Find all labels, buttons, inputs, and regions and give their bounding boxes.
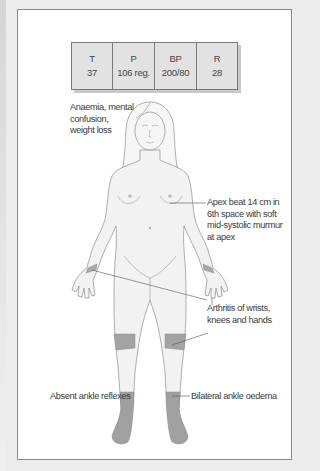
right-knee-band bbox=[165, 334, 186, 350]
label-line: Anaemia, mental bbox=[70, 102, 134, 114]
right-ankle-foot bbox=[166, 392, 188, 444]
label-line: 6th space with soft bbox=[207, 209, 283, 221]
label-line: Arthritis of wrists, bbox=[207, 303, 272, 315]
ankle-reflexes-label: Absent ankle reflexes bbox=[50, 391, 131, 403]
label-line: at apex bbox=[207, 232, 283, 244]
label-line: weight loss bbox=[70, 125, 134, 137]
apex-beat-label: Apex beat 14 cm in 6th space with soft m… bbox=[207, 197, 283, 243]
label-line: knees and hands bbox=[207, 315, 272, 327]
general-findings-label: Anaemia, mental confusion, weight loss bbox=[70, 102, 134, 137]
label-line: mid-systolic murmur bbox=[207, 220, 283, 232]
ankle-oedema-label: Bilateral ankle oedema bbox=[191, 391, 277, 403]
label-line: confusion, bbox=[70, 114, 134, 126]
left-knee-band bbox=[114, 334, 135, 350]
label-line: Apex beat 14 cm in bbox=[207, 197, 283, 209]
arthritis-label: Arthritis of wrists, knees and hands bbox=[207, 303, 272, 326]
